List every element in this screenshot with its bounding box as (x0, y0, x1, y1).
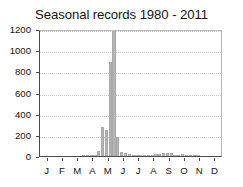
bar (158, 154, 161, 156)
x-tick-mark (92, 158, 93, 161)
x-tick-label: O (180, 165, 187, 176)
bar (139, 155, 142, 156)
x-tick-label: M (73, 165, 81, 176)
y-tick-label: 800 (15, 67, 31, 77)
y-tick-label: 0 (26, 152, 31, 162)
y-tick-label: 400 (15, 110, 31, 120)
x-tick-label: J (120, 165, 125, 176)
bar (196, 155, 199, 156)
y-tick-label: 200 (15, 131, 31, 141)
x-tick-label: M (104, 165, 112, 176)
bar (101, 127, 104, 156)
bar (193, 155, 196, 156)
bar (82, 155, 85, 156)
bar (105, 130, 108, 156)
x-tick-mark (153, 158, 154, 161)
bar (124, 153, 127, 156)
x-tick-label: S (165, 165, 171, 176)
x-tick-mark (199, 158, 200, 161)
x-tick-label: N (196, 165, 203, 176)
chart-title: Seasonal records 1980 - 2011 (0, 7, 243, 22)
x-tick-label: D (211, 165, 218, 176)
y-tick-label: 1200 (10, 25, 31, 35)
bar (128, 154, 131, 156)
bar (109, 62, 112, 156)
bar (120, 152, 123, 156)
bar (177, 155, 180, 156)
bar (189, 155, 192, 156)
bar (162, 153, 165, 156)
x-tick-label: A (89, 165, 95, 176)
bar (143, 155, 146, 156)
bar (112, 30, 115, 156)
bar (116, 137, 119, 156)
bar (185, 155, 188, 156)
x-tick-label: J (44, 165, 49, 176)
y-axis: 020040060080010001200 (0, 30, 36, 157)
bar (151, 155, 154, 156)
x-tick-mark (138, 158, 139, 161)
x-tick-label: A (150, 165, 156, 176)
x-tick-label: J (136, 165, 141, 176)
bar (97, 151, 100, 156)
bar (135, 155, 138, 156)
x-tick-mark (62, 158, 63, 161)
bar (170, 153, 173, 156)
plot-area (39, 30, 222, 157)
chart-figure: Seasonal records 1980 - 2011 02004006008… (0, 0, 243, 187)
bar (147, 155, 150, 156)
x-tick-mark (184, 158, 185, 161)
bar (181, 154, 184, 156)
bar (166, 153, 169, 156)
x-tick-mark (77, 158, 78, 161)
y-tick-label: 1000 (10, 46, 31, 56)
x-tick-mark (47, 158, 48, 161)
x-axis: JFMAMJJASOND (39, 158, 222, 182)
bar (154, 154, 157, 156)
x-tick-mark (108, 158, 109, 161)
x-tick-mark (169, 158, 170, 161)
x-tick-label: F (59, 165, 65, 176)
bar (90, 155, 93, 156)
bar (93, 155, 96, 156)
bar (132, 155, 135, 156)
x-tick-mark (123, 158, 124, 161)
y-tick-label: 600 (15, 89, 31, 99)
bar-series (40, 31, 221, 156)
bar (173, 155, 176, 156)
bar (86, 155, 89, 156)
x-tick-mark (214, 158, 215, 161)
